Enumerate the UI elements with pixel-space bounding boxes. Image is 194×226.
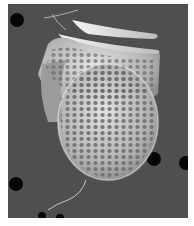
micrograph-drawing [8, 4, 188, 218]
micrograph [8, 4, 188, 218]
